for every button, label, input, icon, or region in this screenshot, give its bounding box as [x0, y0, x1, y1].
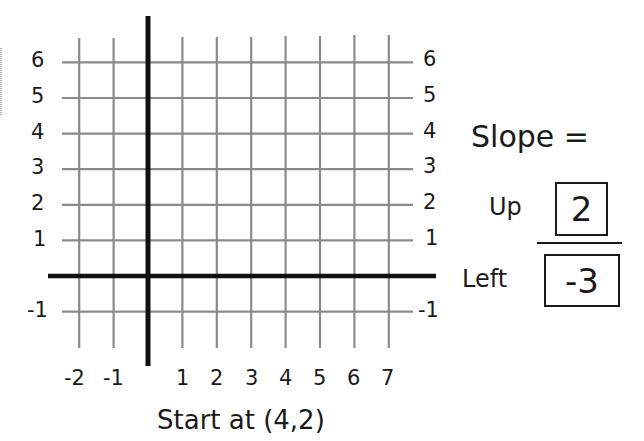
y-tick-label: 3 — [423, 154, 436, 178]
y-tick-label: -1 — [418, 298, 439, 322]
rise-value-box: 2 — [555, 182, 608, 236]
y-tick-label: 1 — [33, 227, 46, 251]
x-tick-label: 7 — [381, 366, 394, 390]
y-tick-label: 6 — [423, 47, 436, 71]
y-tick-label: 5 — [423, 83, 436, 107]
vertical-gridlines — [79, 35, 389, 348]
fraction-bar — [537, 242, 622, 244]
y-tick-label: -1 — [27, 298, 48, 322]
y-tick-label: 3 — [31, 155, 44, 179]
y-tick-label: 6 — [31, 48, 44, 72]
rise-label: Up — [489, 193, 522, 221]
coordinate-plane-worksheet: 6 5 4 3 2 1 -1 6 5 4 3 2 1 -1 -2 -1 1 2 … — [0, 0, 644, 441]
rise-value: 2 — [571, 189, 593, 229]
run-label: Left — [462, 265, 507, 293]
start-point-caption: Start at (4,2) — [157, 405, 325, 435]
y-tick-label: 2 — [423, 190, 436, 214]
y-tick-label: 2 — [31, 191, 44, 215]
x-tick-label: 5 — [313, 366, 326, 390]
x-tick-label: -1 — [103, 366, 124, 390]
x-tick-label: 4 — [279, 366, 292, 390]
x-tick-label: -2 — [64, 366, 85, 390]
x-tick-label: 2 — [210, 366, 223, 390]
slope-title: Slope = — [471, 119, 589, 154]
x-tick-label: 3 — [245, 366, 258, 390]
y-tick-label: 4 — [423, 119, 436, 143]
y-tick-label: 1 — [425, 226, 438, 250]
y-tick-label: 4 — [31, 120, 44, 144]
y-tick-label: 5 — [31, 84, 44, 108]
run-value: -3 — [565, 261, 599, 301]
x-tick-label: 1 — [176, 366, 189, 390]
run-value-box: -3 — [544, 254, 620, 307]
x-tick-label: 6 — [347, 366, 360, 390]
